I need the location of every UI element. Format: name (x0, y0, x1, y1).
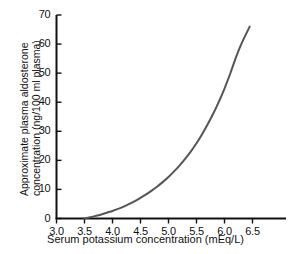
axis-lines (56, 15, 287, 219)
y-axis-tick-label: 0 (23, 212, 51, 224)
chart-figure: 010203040506070 3.03.54.04.55.05.56.06.5… (0, 0, 291, 254)
y-axis-tick-label: 70 (23, 8, 51, 20)
x-axis-title: Serum potassium concentration (mEq/L) (0, 233, 291, 245)
aldosterone-curve (85, 27, 250, 219)
y-axis-title-line-1: Approximate plasma aldosterone (18, 42, 30, 196)
y-axis-title-line-2: concentration (ng/100 ml plasma) (30, 40, 42, 196)
